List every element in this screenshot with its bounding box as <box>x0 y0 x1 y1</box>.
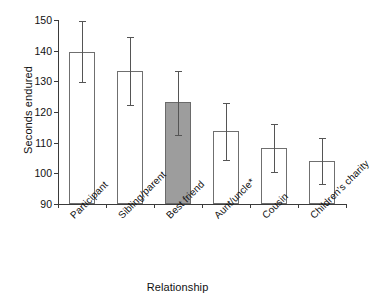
y-tick <box>54 51 58 52</box>
y-tick-label: 100 <box>34 167 52 179</box>
y-tick <box>54 112 58 113</box>
y-axis-title: Seconds endured <box>22 30 34 190</box>
error-bar <box>226 103 227 160</box>
y-tick <box>54 20 58 21</box>
y-tick-label: 120 <box>34 106 52 118</box>
y-tick <box>54 81 58 82</box>
x-tick <box>298 204 299 208</box>
error-bar-cap-upper <box>175 71 182 72</box>
y-tick-label: 130 <box>34 75 52 87</box>
y-axis-line <box>58 20 59 205</box>
error-bar-cap-upper <box>223 103 230 104</box>
error-bar-cap-lower <box>79 82 86 83</box>
error-bar <box>130 37 131 105</box>
error-bar <box>322 138 323 184</box>
error-bar <box>82 21 83 82</box>
x-tick <box>58 204 59 208</box>
error-bar-cap-upper <box>79 21 86 22</box>
error-bar-cap-lower <box>175 135 182 136</box>
x-tick <box>250 204 251 208</box>
y-tick <box>54 173 58 174</box>
error-bar-cap-lower <box>271 172 278 173</box>
x-tick <box>154 204 155 208</box>
error-bar-cap-lower <box>319 184 326 185</box>
plot-area: 90100110120130140150 <box>58 20 346 204</box>
x-axis-title: Relationship <box>0 281 355 293</box>
y-tick-label: 140 <box>34 45 52 57</box>
error-bar-cap-lower <box>127 105 134 106</box>
x-tick <box>346 204 347 208</box>
error-bar <box>178 71 179 135</box>
y-tick-label: 110 <box>35 137 52 149</box>
error-bar-cap-upper <box>271 124 278 125</box>
error-bar <box>274 124 275 172</box>
error-bar-cap-upper <box>127 37 134 38</box>
x-tick <box>106 204 107 208</box>
y-tick-label: 90 <box>40 198 52 210</box>
error-bar-cap-upper <box>319 138 326 139</box>
error-bar-cap-lower <box>223 160 230 161</box>
y-tick-label: 150 <box>34 14 52 26</box>
y-tick <box>54 143 58 144</box>
x-tick <box>202 204 203 208</box>
